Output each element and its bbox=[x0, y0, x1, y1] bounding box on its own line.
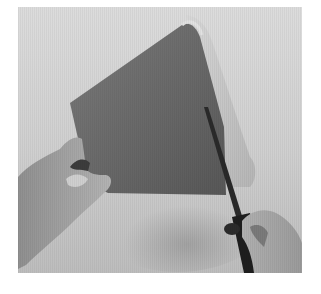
film-texture bbox=[18, 7, 302, 273]
photo-canvas bbox=[18, 7, 302, 273]
photograph bbox=[18, 7, 302, 273]
